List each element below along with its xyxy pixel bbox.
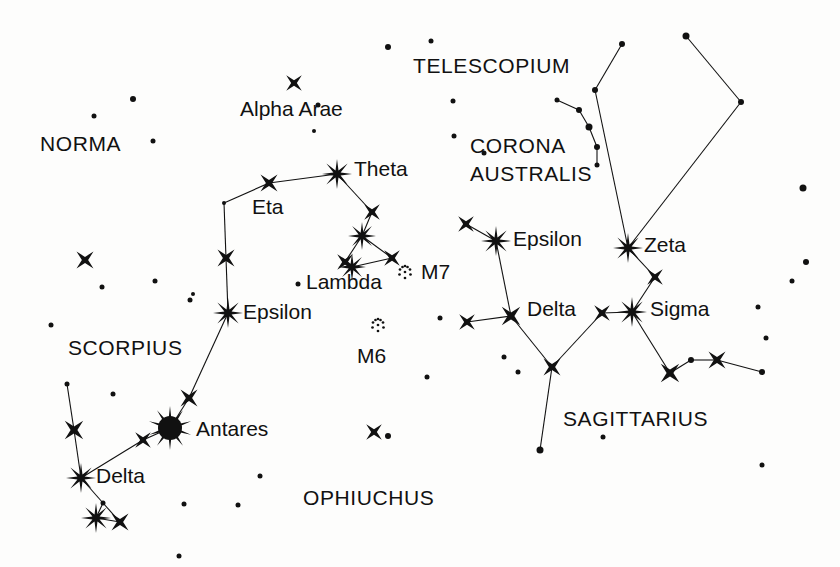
star-cra-dot-2 <box>576 107 582 113</box>
star-mu-sco <box>384 250 400 266</box>
constellation-label-sagittarius: SAGITTARIUS <box>563 408 708 429</box>
star-label-sigma: Sigma <box>650 298 710 319</box>
constellation-line-sco-eta-theta <box>269 174 337 183</box>
star-label-alpha-arae: Alpha Arae <box>240 98 343 119</box>
cluster-dot <box>377 324 380 327</box>
star-field-dot-17 <box>425 375 430 380</box>
cluster-dot <box>382 321 385 324</box>
constellation-label-telescopium: TELESCOPIUM <box>413 55 570 76</box>
star-field-dot-1 <box>92 114 97 119</box>
star-field-dot-3 <box>151 139 156 144</box>
star-label-lambda: Lambda <box>306 271 382 292</box>
star-field-dot-14 <box>296 282 301 287</box>
star-field-dot-10 <box>236 503 241 508</box>
constellation-line-sgr-epsilon-delta <box>496 241 511 316</box>
star-sgr-handle-dot <box>688 357 694 363</box>
star-theta-sco <box>322 159 352 189</box>
constellation-line-sgr-eta-epsilon <box>466 224 496 241</box>
constellation-label-norma: NORMA <box>40 133 121 154</box>
star-field-dot-12 <box>177 554 182 559</box>
cluster-dot <box>404 271 407 274</box>
star-sigma-sgr <box>617 297 647 327</box>
constellation-line-sco-epsilon-tau <box>189 313 228 398</box>
cluster-dot <box>377 330 380 333</box>
star-antares-core <box>158 416 182 440</box>
star-label-delta: Delta <box>527 298 576 319</box>
star-field-dot-15 <box>191 292 195 296</box>
cluster-dot <box>409 268 412 271</box>
star-epsilon-sco <box>213 298 243 328</box>
star-cra-dot-5 <box>595 163 600 168</box>
star-zeta-sgr <box>613 233 643 263</box>
star-field-dot-30 <box>756 305 761 310</box>
star-field-dot-32 <box>438 316 443 321</box>
cluster-dot <box>382 326 385 329</box>
star-field-dot-33 <box>312 129 316 133</box>
star-delta-sgr <box>502 307 520 325</box>
star-field-dot-26 <box>760 463 765 468</box>
cluster-symbol-M7 <box>398 265 412 280</box>
constellation-line-sco-mu-lambda <box>352 258 392 267</box>
constellation-line-sgr-eta2-phi <box>552 313 602 367</box>
star-label-epsilon: Epsilon <box>243 301 312 322</box>
star-label-theta: Theta <box>354 158 408 179</box>
cluster-dot <box>406 266 409 269</box>
star-epsilon-sgr <box>481 226 511 256</box>
cluster-dot <box>399 268 402 271</box>
star-tau-sgr <box>647 269 663 285</box>
star-field-dot-18 <box>385 44 391 50</box>
star-sco-field-1 <box>77 252 94 269</box>
star-field-dot-20 <box>451 99 456 104</box>
star-field-dot-4 <box>100 285 105 290</box>
star-field-dot-5 <box>49 323 54 328</box>
star-gamma-sgr <box>459 314 475 330</box>
constellation-label-corona-australis: CORONA <box>470 135 566 156</box>
star-field-dot-9 <box>182 502 187 507</box>
star-dot-claw <box>101 501 106 506</box>
star-sgr-handle-1 <box>661 364 679 382</box>
star-sgr-bottom-dot <box>537 447 544 454</box>
star-field-dot-2 <box>130 96 136 102</box>
star-field-dot-8 <box>111 392 116 397</box>
constellation-line-sgr-delta-eta2 <box>511 316 552 367</box>
star-pi-sco <box>81 503 111 533</box>
star-field-dot-23 <box>502 355 507 360</box>
stars-layer <box>49 33 810 559</box>
star-field-dot-21 <box>452 134 457 139</box>
star-eta-sco <box>261 175 278 192</box>
cluster-dot <box>374 319 377 322</box>
star-eta-sgr <box>458 216 474 232</box>
cluster-label-m6: M6 <box>357 345 386 366</box>
star-cra-dot-4 <box>594 144 600 150</box>
constellation-line-cra-arc-1 <box>557 100 579 110</box>
constellation-line-sgr-zeta-updot4 <box>628 102 741 248</box>
cluster-dot <box>404 265 407 268</box>
star-rho-sco <box>112 514 129 531</box>
star-sgr-upper-dot-2 <box>619 41 625 47</box>
star-field-dot-29 <box>790 279 795 284</box>
star-cra-dot-1 <box>555 98 560 103</box>
constellation-label-corona-australis: AUSTRALIS <box>470 163 592 184</box>
cluster-symbol-M6 <box>371 318 385 333</box>
star-field-dot-7 <box>153 279 158 284</box>
constellation-line-sgr-updot1-updot2 <box>595 44 622 90</box>
star-sigma-sco <box>135 432 151 448</box>
constellation-line-sgr-updot4-updot3 <box>686 36 741 102</box>
constellation-label-ophiuchus: OPHIUCHUS <box>303 487 434 508</box>
star-field-dot-31 <box>764 336 769 341</box>
star-field-dot-24 <box>516 370 521 375</box>
star-field-dot-19 <box>429 39 434 44</box>
star-field-dot-6 <box>188 298 193 303</box>
constellation-line-sco-bend-mu2 <box>224 203 226 258</box>
cluster-dot <box>398 273 401 276</box>
star-ophiuchus-star <box>366 424 382 440</box>
star-delta-sco <box>66 463 96 493</box>
star-field-dot-11 <box>258 474 263 479</box>
constellation-line-sco-delta-beta <box>74 430 81 478</box>
constellation-line-sgr-zeta-updot1 <box>595 90 628 248</box>
constellation-label-scorpius: SCORPIUS <box>68 337 183 358</box>
cluster-dot <box>404 277 407 280</box>
star-kappa-sco <box>348 222 376 250</box>
star-sgr-upper-dot-4 <box>738 99 744 105</box>
cluster-dot <box>379 319 382 322</box>
